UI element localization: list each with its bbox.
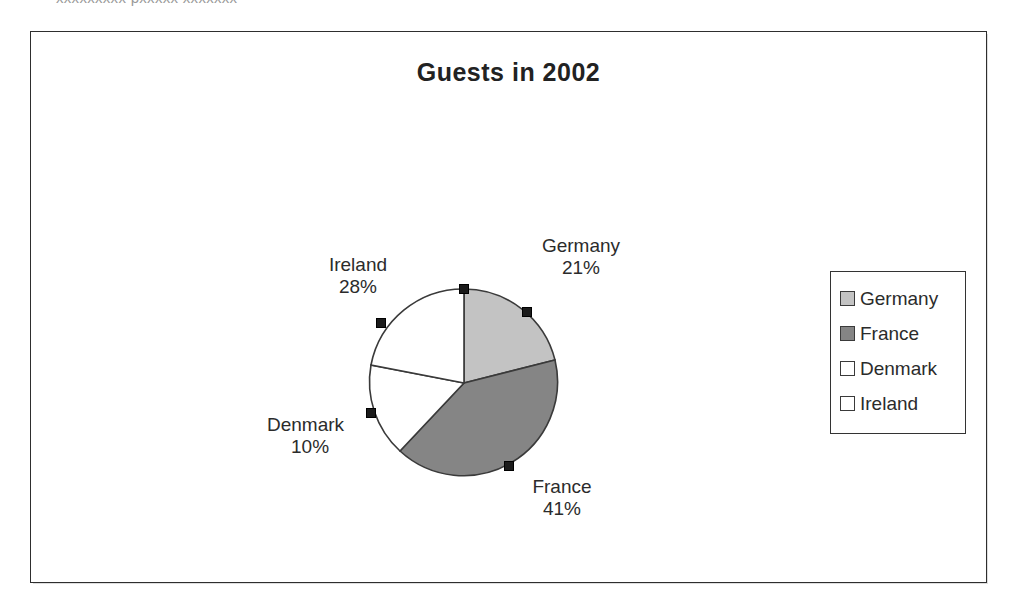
legend-item-france[interactable]: France bbox=[840, 316, 965, 351]
data-label-denmark-pct: 10% bbox=[291, 436, 397, 458]
legend-item-ireland[interactable]: Ireland bbox=[840, 386, 965, 421]
legend-swatch-denmark bbox=[840, 361, 855, 376]
data-label-germany-pct: 21% bbox=[521, 257, 641, 279]
legend-swatch-france bbox=[840, 326, 855, 341]
data-label-germany-name: Germany bbox=[521, 235, 641, 257]
legend-label-france: France bbox=[860, 323, 919, 345]
chart-legend[interactable]: Germany France Denmark Ireland bbox=[830, 271, 966, 434]
legend-item-germany[interactable]: Germany bbox=[840, 281, 965, 316]
chart-title: Guests in 2002 bbox=[31, 58, 986, 87]
data-label-france-name: France bbox=[507, 476, 617, 498]
data-label-ireland[interactable]: Ireland 28% bbox=[303, 254, 413, 298]
selection-handle[interactable] bbox=[522, 307, 532, 317]
screenshot-page: xxxxxxxxx pxxxxx xxxxxxx Guests in 2002 bbox=[0, 0, 1019, 612]
data-label-france[interactable]: France 41% bbox=[507, 476, 617, 520]
legend-swatch-germany bbox=[840, 291, 855, 306]
legend-swatch-ireland bbox=[840, 396, 855, 411]
legend-label-denmark: Denmark bbox=[860, 358, 937, 380]
legend-item-denmark[interactable]: Denmark bbox=[840, 351, 965, 386]
selection-handle[interactable] bbox=[376, 318, 386, 328]
data-label-ireland-pct: 28% bbox=[303, 276, 413, 298]
selection-handle[interactable] bbox=[504, 461, 514, 471]
clipped-header-text: xxxxxxxxx pxxxxx xxxxxxx bbox=[56, 0, 237, 6]
data-label-ireland-name: Ireland bbox=[303, 254, 413, 276]
legend-label-ireland: Ireland bbox=[860, 393, 918, 415]
data-label-germany[interactable]: Germany 21% bbox=[521, 235, 641, 279]
data-label-france-pct: 41% bbox=[507, 498, 617, 520]
data-label-denmark[interactable]: Denmark 10% bbox=[267, 414, 397, 458]
data-label-denmark-name: Denmark bbox=[267, 414, 397, 436]
selection-handle[interactable] bbox=[459, 284, 469, 294]
clipped-header-strip: xxxxxxxxx pxxxxx xxxxxxx bbox=[0, 0, 1019, 12]
legend-label-germany: Germany bbox=[860, 288, 938, 310]
chart-frame[interactable]: Guests in 2002 Germany 21% bbox=[30, 31, 987, 583]
